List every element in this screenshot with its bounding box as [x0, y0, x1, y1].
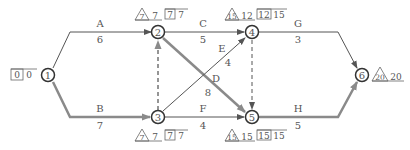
- node-3: 3: [152, 111, 165, 124]
- svg-text:7: 7: [167, 131, 173, 141]
- svg-text:2: 2: [155, 27, 161, 38]
- node-1: 1: [42, 69, 55, 82]
- svg-text:1: 1: [45, 70, 51, 81]
- svg-text:6: 6: [359, 70, 365, 81]
- activity-f-name: F: [200, 103, 207, 114]
- activity-e-duration: 4: [225, 57, 231, 68]
- activity-f-duration: 4: [200, 120, 206, 131]
- annotation-node-3: 7 7 7 7: [135, 129, 188, 142]
- node-2: 2: [152, 26, 165, 39]
- network-diagram: A 6 B 7 C 5 D 8 E 4 F 4 G 3 H 5: [0, 0, 410, 150]
- activity-g: G 3: [259, 18, 357, 68]
- node-6: 6: [356, 69, 369, 82]
- activity-d-name: D: [212, 73, 220, 84]
- svg-text:7: 7: [178, 131, 184, 141]
- activity-c-duration: 5: [200, 34, 206, 45]
- svg-text:7: 7: [152, 11, 158, 21]
- svg-text:7: 7: [167, 10, 173, 20]
- svg-text:7: 7: [152, 132, 158, 142]
- svg-text:12: 12: [241, 11, 252, 21]
- activity-h-duration: 5: [295, 120, 301, 131]
- activity-b-duration: 7: [97, 120, 103, 131]
- annotation-node-6: 20 20: [372, 67, 404, 82]
- activity-e-name: E: [218, 43, 225, 54]
- node-5: 5: [246, 111, 259, 124]
- activity-g-duration: 3: [295, 34, 301, 45]
- svg-text:15: 15: [273, 131, 285, 141]
- annotation-node-5: 15 15 15 15: [225, 129, 287, 142]
- svg-text:7: 7: [178, 10, 184, 20]
- annotation-node-4: 15 12 12 15: [225, 8, 287, 21]
- node-4: 4: [246, 26, 259, 39]
- activity-a-name: A: [95, 18, 104, 29]
- svg-text:0: 0: [14, 70, 20, 80]
- svg-text:4: 4: [249, 27, 255, 38]
- activity-g-name: G: [294, 18, 302, 29]
- activity-a-duration: 6: [97, 34, 103, 45]
- activity-b: B 7: [53, 82, 150, 131]
- activity-h: H 5: [259, 82, 357, 131]
- svg-text:20: 20: [390, 72, 402, 82]
- annotation-node-2: 7 7 7 7: [135, 8, 188, 21]
- activity-c: C 5: [165, 18, 244, 45]
- activity-b-name: B: [96, 103, 103, 114]
- svg-text:15: 15: [241, 132, 253, 142]
- activity-f: F 4: [165, 103, 244, 131]
- activity-a: A 6: [53, 18, 151, 68]
- activity-d-duration: 8: [205, 87, 211, 98]
- svg-text:3: 3: [155, 112, 161, 123]
- annotation-node-1: 0 0: [11, 69, 37, 80]
- svg-text:12: 12: [258, 10, 269, 20]
- svg-text:0: 0: [26, 70, 32, 80]
- activity-c-name: C: [199, 18, 207, 29]
- svg-text:15: 15: [273, 10, 285, 20]
- svg-text:15: 15: [258, 131, 270, 141]
- activity-h-name: H: [294, 103, 303, 114]
- svg-text:5: 5: [249, 112, 255, 123]
